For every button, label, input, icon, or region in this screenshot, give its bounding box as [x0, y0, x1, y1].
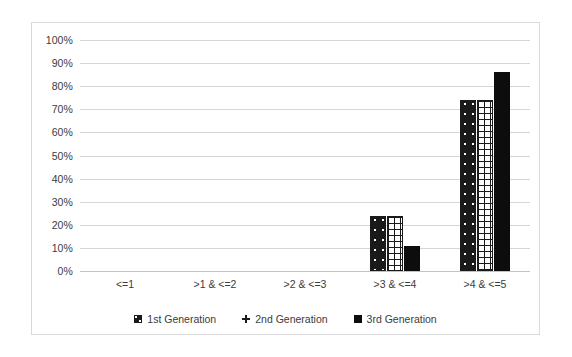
plot-area: [80, 40, 530, 271]
x-tick-label: >4 & <=5: [440, 278, 530, 290]
legend-label: 3rd Generation: [367, 313, 437, 325]
bar[interactable]: [404, 246, 420, 271]
x-tick-label: >1 & <=2: [170, 278, 260, 290]
y-tick-label: 40%: [52, 173, 73, 185]
y-tick-label: 70%: [52, 103, 73, 115]
bar-chart-figure: 0%10%20%30%40%50%60%70%80%90%100% <=1>1 …: [0, 0, 572, 357]
legend-label: 2nd Generation: [255, 313, 327, 325]
bar-group: [260, 40, 350, 271]
gridline-0: [80, 271, 530, 272]
y-tick-label: 90%: [52, 57, 73, 69]
legend-item[interactable]: 3rd Generation: [354, 313, 437, 325]
bar-group: [170, 40, 260, 271]
bar[interactable]: [370, 216, 386, 271]
y-tick-label: 80%: [52, 80, 73, 92]
legend-swatch-icon: [242, 315, 250, 323]
legend-swatch-icon: [354, 315, 362, 323]
x-tick-label: >2 & <=3: [260, 278, 350, 290]
x-tick-label: <=1: [80, 278, 170, 290]
legend-item[interactable]: 2nd Generation: [242, 313, 327, 325]
y-tick-label: 100%: [46, 34, 73, 46]
bar-group: [440, 40, 530, 271]
x-axis: <=1>1 & <=2>2 & <=3>3 & <=4>4 & <=5: [80, 278, 530, 296]
bar-group: [350, 40, 440, 271]
bar[interactable]: [387, 216, 403, 271]
legend-item[interactable]: 1st Generation: [134, 313, 216, 325]
y-axis: 0%10%20%30%40%50%60%70%80%90%100%: [31, 40, 80, 271]
y-tick-label: 20%: [52, 219, 73, 231]
bar[interactable]: [477, 100, 493, 271]
legend-swatch-icon: [134, 315, 142, 323]
y-tick-label: 0%: [58, 265, 73, 277]
legend-label: 1st Generation: [147, 313, 216, 325]
bar[interactable]: [460, 100, 476, 271]
bar-group: [80, 40, 170, 271]
y-tick-label: 60%: [52, 126, 73, 138]
y-tick-label: 30%: [52, 196, 73, 208]
x-tick-label: >3 & <=4: [350, 278, 440, 290]
y-tick-label: 50%: [52, 150, 73, 162]
y-tick-label: 10%: [52, 242, 73, 254]
bar[interactable]: [494, 72, 510, 271]
chart-legend: 1st Generation2nd Generation3rd Generati…: [31, 308, 540, 330]
